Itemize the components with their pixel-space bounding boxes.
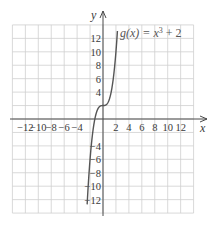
x-tick-label: −8 — [46, 122, 57, 133]
y-tick-label: −10 — [85, 181, 101, 192]
function-label-tail: + 2 — [163, 26, 182, 40]
axes — [10, 11, 207, 216]
function-label: g(x) = x3 + 2 — [120, 26, 182, 41]
x-tick-label: 10 — [162, 122, 173, 133]
x-tick-label: −4 — [72, 122, 84, 133]
y-tick-label: −6 — [90, 154, 101, 165]
y-tick-label: 12 — [91, 33, 102, 44]
x-tick-label: 4 — [126, 122, 132, 133]
x-tick-label: 6 — [139, 122, 144, 133]
y-tick-label: 8 — [96, 60, 101, 71]
x-tick-label: 8 — [152, 122, 157, 133]
x-tick-label: 12 — [175, 122, 186, 133]
x-tick-label: −10 — [30, 122, 46, 133]
x-tick-label: −6 — [59, 122, 70, 133]
y-tick-label: 6 — [96, 74, 101, 85]
y-tick-label: −8 — [90, 168, 101, 179]
y-tick-label: 10 — [91, 47, 102, 58]
y-tick-label: 4 — [96, 87, 102, 98]
y-axis-label: y — [90, 8, 97, 22]
function-label-name: g(x) = x — [120, 26, 159, 40]
x-tick-label: 2 — [113, 122, 118, 133]
x-axis-label: x — [199, 121, 206, 135]
cubic-function-graph: −12−10−8−6−4246810121210864−4−6−8−10−12 … — [0, 0, 219, 228]
